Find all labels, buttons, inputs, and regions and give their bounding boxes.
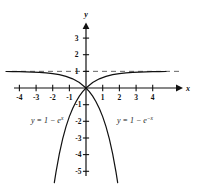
- x-tick-label-pos4: 4: [151, 93, 155, 102]
- y-tick-label-neg3: -3: [75, 134, 81, 143]
- cartesian-plot-svg: -4 -3 -2 -1 1 2 3 4 3 2 1 -1 -2 -3 -4 -5…: [0, 0, 197, 186]
- x-tick-label-pos3: 3: [134, 93, 138, 102]
- y-tick-label-neg5: -5: [75, 167, 81, 176]
- equation-label-right-exponent: −x: [147, 115, 154, 121]
- x-tick-label-pos2: 2: [118, 93, 122, 102]
- exponential-graph-figure: -4 -3 -2 -1 1 2 3 4 3 2 1 -1 -2 -3 -4 -5…: [0, 0, 197, 186]
- x-axis-label: x: [185, 84, 190, 93]
- x-tick-label-pos1: 1: [101, 93, 105, 102]
- x-tick-label-neg2: -2: [50, 93, 56, 102]
- y-tick-label-2: 2: [75, 50, 79, 59]
- x-tick-label-neg4: -4: [16, 93, 22, 102]
- y-tick-label-neg4: -4: [75, 150, 81, 159]
- equation-label-right-base: y = 1 − e: [116, 116, 147, 125]
- equation-label-left-exponent: x: [60, 115, 64, 121]
- y-axis-label: y: [83, 10, 88, 19]
- equation-label-left: y = 1 − ex: [30, 115, 64, 125]
- x-tick-label-neg1: -1: [66, 93, 72, 102]
- y-tick-label-neg2: -2: [75, 117, 81, 126]
- y-tick-label-neg1: -1: [75, 100, 81, 109]
- plot-background: [0, 0, 197, 186]
- y-tick-label-3: 3: [75, 34, 79, 43]
- equation-label-left-base: y = 1 − e: [30, 116, 61, 125]
- y-tick-label-1: 1: [75, 67, 79, 76]
- x-tick-label-neg3: -3: [33, 93, 39, 102]
